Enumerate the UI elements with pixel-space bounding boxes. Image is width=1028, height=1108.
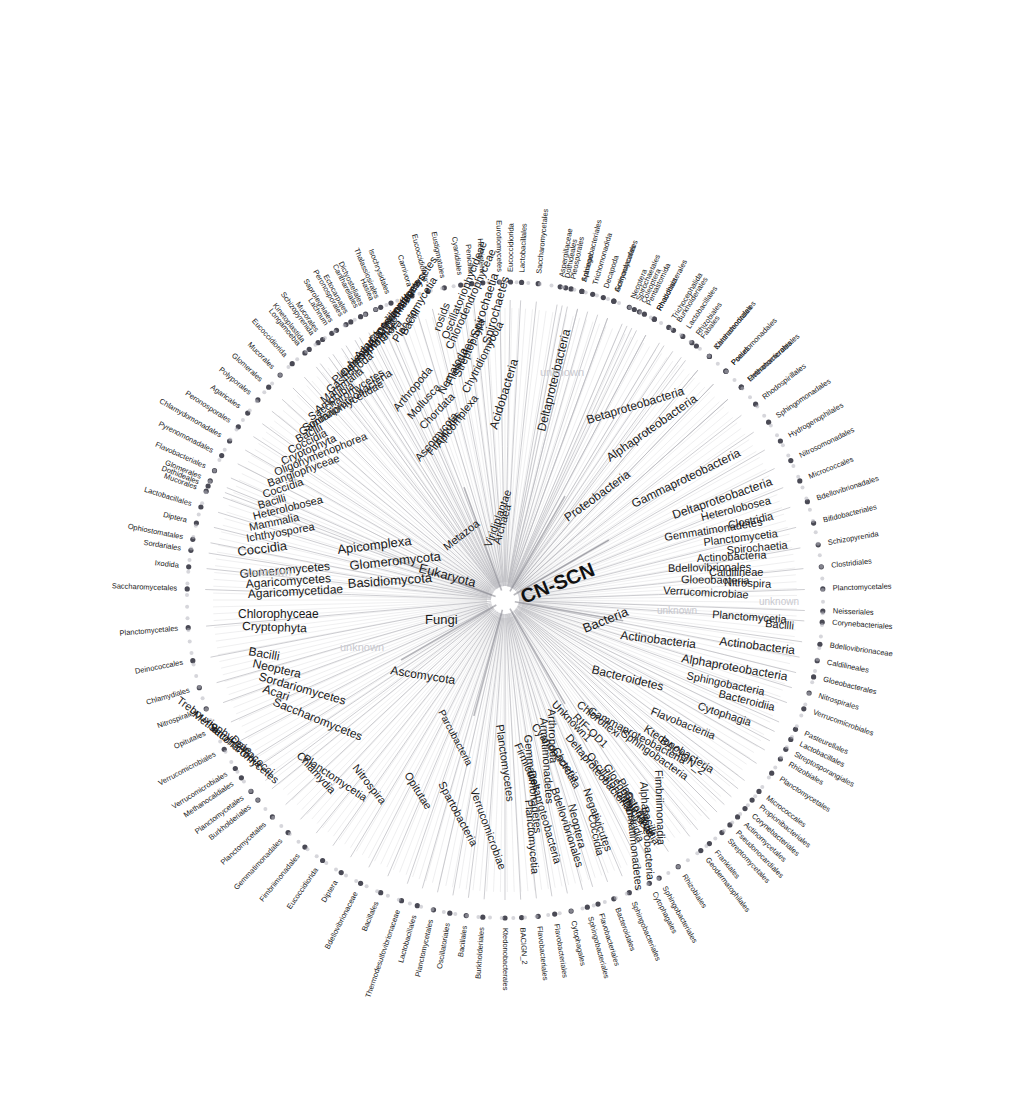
outer-order-label: Schizopyrenida [827, 529, 880, 547]
outer-order-label: Flavobacteriales [535, 926, 550, 981]
outer-order-label: Lactobacillales [396, 914, 418, 964]
outer-order-label: BACIGN_2 [518, 927, 529, 965]
outer-order-label: Oscillatoriales [435, 922, 452, 970]
outer-order-label: Bifidobacteriales [822, 502, 878, 524]
outer-order-label: Planctomycetales [119, 624, 179, 638]
outer-order-label: Bdellovibrionadales [815, 474, 880, 503]
outer-order-label: Burkholderiales [473, 927, 486, 979]
outer-order-label: Clostridiales [831, 556, 873, 569]
outer-order-label: Bacillales [360, 900, 381, 933]
domain-label: unknown [657, 605, 697, 616]
outer-order-label: Bacillales [456, 925, 469, 958]
outer-order-label: Cytophagales [569, 920, 587, 967]
outer-order-label: Poales [729, 344, 752, 367]
outer-order-label: Lactobacillales [143, 485, 193, 508]
outer-order-label: Diptera [319, 878, 340, 904]
domain-label: Fungi [425, 612, 458, 627]
outer-order-label: Planctomycetales [833, 582, 892, 593]
domain-label: unknown [759, 596, 799, 607]
outer-order-label: Saccharomycetales [112, 581, 178, 592]
outer-order-label: Deinococcales [134, 658, 184, 676]
outer-order-label: Eucoccidiorida [506, 222, 516, 272]
outer-order-label: Sphingobacteriales [630, 900, 663, 962]
outer-order-label: Verrucomicrobiales [812, 707, 875, 737]
domain-label: unknown [340, 641, 384, 653]
tree-canvas: SphingobacterialesActinomycetalesSpiroch… [0, 0, 1028, 1108]
outer-order-label: Ophiostomatales [127, 522, 184, 542]
outer-order-label: Corynebacteriales [832, 618, 893, 631]
outer-order-label: Rhizobiales [680, 872, 709, 910]
outer-order-label: Gloeobacterales [822, 675, 877, 697]
outer-order-label: Ixodida [154, 558, 180, 570]
outer-order-label: Saccharomycetales [534, 208, 550, 274]
outer-order-label: Planctomycetales [413, 918, 435, 978]
domain-label: unknown [540, 366, 584, 378]
outer-order-label: Caldilineales [826, 658, 870, 675]
outer-order-label: Eucoccidiorida [285, 865, 321, 911]
outer-order-label: Ktedonobacterales [501, 928, 510, 991]
outer-order-label: Chlamydomonadales [158, 396, 224, 439]
clade-label: Opitutae [402, 770, 434, 812]
outer-order-label: Diptera [162, 510, 188, 525]
outer-order-label: Neisseriales [833, 606, 874, 616]
clade-label: Arthropoda [546, 709, 560, 765]
outer-order-label: Lactobacillales [517, 223, 529, 273]
clade-label: Bacilli [765, 617, 795, 631]
clade-label: Actinobacteria [719, 634, 797, 657]
outer-order-label: Nitrospirales [818, 691, 861, 712]
outer-order-label: Bdellovibrionaceae [829, 641, 893, 659]
clade-label: Cryptophyta [242, 619, 307, 635]
clade-label: Chlorophyceae [238, 607, 319, 621]
outer-order-label: Opitutales [172, 729, 207, 751]
outer-order-label: Flavobacteriales [552, 923, 569, 979]
outer-order-label: Micrococcales [807, 455, 855, 481]
phylogenetic-tree-figure: SphingobacterialesActinomycetalesSpiroch… [0, 0, 1028, 1108]
domain-label: unknown [247, 566, 291, 578]
outer-order-label: Eurotiomycetes [494, 220, 504, 272]
outer-order-label: Eustigmatales [429, 231, 447, 279]
clade-label: Trebouxiophyceae [175, 694, 255, 757]
outer-order-label: Cyanidiales [450, 236, 464, 276]
